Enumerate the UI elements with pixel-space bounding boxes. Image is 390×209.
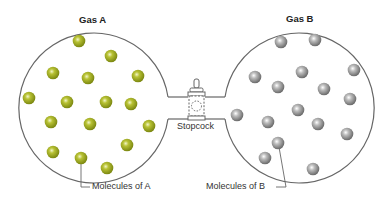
molecule-a <box>47 146 60 159</box>
molecule-b <box>309 34 322 47</box>
molecule-b <box>348 64 361 77</box>
molecule-a <box>100 96 113 109</box>
molecule-a <box>105 50 118 63</box>
molecule-a <box>84 118 97 131</box>
molecule-b <box>275 36 288 49</box>
molecules-a-group <box>23 35 156 175</box>
stopcock-label: Stopcock <box>177 121 214 131</box>
molecule-b <box>341 128 354 141</box>
molecule-b <box>259 152 272 165</box>
stopcock-icon <box>188 79 205 120</box>
molecule-a <box>73 35 86 48</box>
molecule-a <box>82 72 95 85</box>
molecule-a <box>75 152 88 165</box>
molecule-a <box>132 70 145 83</box>
molecules-b-label: Molecules of B <box>206 181 265 191</box>
molecule-a <box>23 92 36 105</box>
molecule-b <box>292 104 305 117</box>
gas-diffusion-diagram <box>0 0 390 209</box>
gas-b-label: Gas B <box>286 13 313 24</box>
molecule-a <box>47 67 60 80</box>
molecule-b <box>272 81 285 94</box>
flask-a-outline <box>19 33 168 183</box>
molecule-a <box>61 96 74 109</box>
gas-a-label: Gas A <box>79 14 106 25</box>
molecule-b <box>262 116 275 129</box>
molecule-b <box>318 83 331 96</box>
molecule-b <box>231 109 244 122</box>
molecule-b <box>344 93 357 106</box>
molecule-a <box>101 162 114 175</box>
molecule-b <box>312 118 325 131</box>
molecule-a <box>125 98 138 111</box>
molecules-a-label: Molecules of A <box>92 181 151 191</box>
molecule-a <box>45 116 58 129</box>
molecules-b-group <box>231 34 361 176</box>
molecule-b <box>296 66 309 79</box>
molecule-a <box>121 139 134 152</box>
molecule-a <box>143 120 156 133</box>
molecule-b <box>307 163 320 176</box>
molecule-b <box>272 137 285 150</box>
molecule-b <box>249 71 262 84</box>
